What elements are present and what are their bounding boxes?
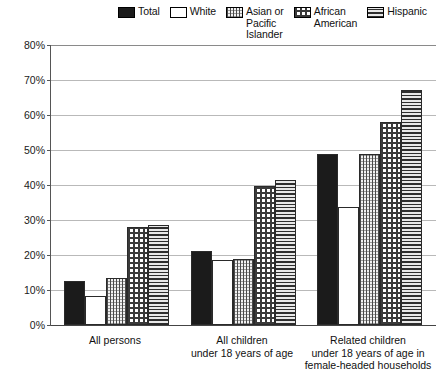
legend-item-asian-pacific-islander: Asian or Pacific Islander: [226, 6, 284, 41]
bar: [338, 207, 359, 325]
legend-label-african-american: African American: [314, 6, 358, 29]
legend-label-white: White: [190, 6, 216, 18]
bar: [148, 225, 169, 325]
bar: [233, 259, 254, 325]
y-axis-tick-label: 40%: [24, 179, 45, 191]
y-axis-tick-label: 30%: [24, 214, 45, 226]
y-axis-tick-label: 0%: [30, 319, 45, 331]
bar-chart-plot-area: 0%10%20%30%40%50%60%70%80%: [50, 45, 436, 326]
chart-legend: Total White Asian or Pacific Islander Af…: [118, 6, 434, 41]
legend-item-african-american: African American: [294, 6, 358, 29]
bar: [401, 90, 422, 325]
bar: [380, 122, 401, 325]
y-axis-tick-label: 80%: [24, 39, 45, 51]
legend-swatch-total-icon: [118, 7, 135, 18]
legend-swatch-asian-icon: [226, 7, 243, 18]
bar-group: [317, 45, 422, 325]
y-axis-tick-label: 60%: [24, 109, 45, 121]
legend-swatch-white-icon: [170, 7, 187, 18]
legend-item-total: Total: [118, 6, 160, 18]
bar-group: [191, 45, 296, 325]
legend-label-hispanic: Hispanic: [387, 6, 426, 18]
bar: [359, 154, 380, 325]
legend-swatch-african-american-icon: [294, 7, 311, 18]
bar: [106, 278, 127, 325]
legend-swatch-hispanic-icon: [367, 7, 384, 18]
bar-group: [64, 45, 169, 325]
legend-label-asian: Asian or Pacific Islander: [246, 6, 284, 41]
bar: [191, 251, 212, 325]
bar: [127, 227, 148, 325]
legend-item-white: White: [170, 6, 216, 18]
y-axis-tick-label: 50%: [24, 144, 45, 156]
bar: [85, 296, 106, 325]
legend-label-total: Total: [138, 6, 160, 18]
bar: [64, 281, 85, 325]
bar: [275, 180, 296, 325]
y-axis-tick-label: 70%: [24, 74, 45, 86]
y-axis-tick-label: 10%: [24, 284, 45, 296]
legend-item-hispanic: Hispanic: [367, 6, 426, 18]
bar: [317, 154, 338, 325]
bar-groups: [51, 45, 436, 325]
y-axis-tick-label: 20%: [24, 249, 45, 261]
x-axis-group-label: Related children under 18 years of age i…: [278, 334, 440, 372]
bar: [212, 260, 233, 325]
bar: [254, 186, 275, 325]
y-axis-tick-mark: [47, 325, 51, 326]
